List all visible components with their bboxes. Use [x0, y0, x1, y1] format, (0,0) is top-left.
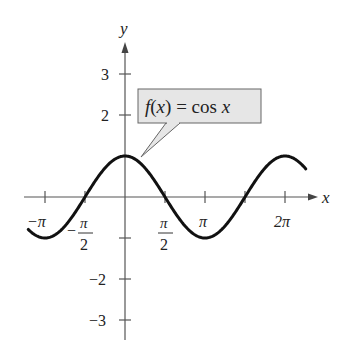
x-tick-label-half-pi-num: π [160, 215, 168, 231]
x-tick-label-neg-half-pi-sign: − [67, 222, 76, 239]
y-tick-label-neg-2: −2 [89, 271, 106, 288]
x-tick-label-2pi: 2π [274, 213, 291, 230]
x-axis-label: x [321, 188, 330, 207]
y-axis-label: y [118, 19, 128, 38]
callout-label: f(x) = cos x [145, 96, 231, 118]
y-axis-arrow-icon [122, 42, 129, 53]
y-tick-label-2: 2 [101, 107, 109, 124]
x-tick-label-neg-half-pi-den: 2 [80, 236, 88, 253]
x-tick-label-neg-pi: −π [27, 213, 47, 230]
x-tick-label-pi: π [199, 213, 208, 230]
y-tick-label-3: 3 [101, 66, 109, 83]
x-tick-label-half-pi-den: 2 [160, 236, 168, 253]
y-tick-label-neg-3: −3 [89, 312, 106, 329]
cosine-graph: x y −π − π 2 π 2 π 2π 3 2 −2 −3 f(x) = c… [0, 0, 349, 344]
callout-pointer [141, 123, 180, 157]
x-axis-arrow-icon [308, 194, 318, 201]
x-tick-label-neg-half-pi-num: π [80, 215, 88, 231]
function-callout: f(x) = cos x [138, 89, 261, 157]
